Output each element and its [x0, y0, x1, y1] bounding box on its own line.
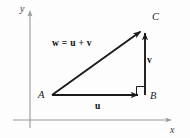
- vertex-label-b: B: [150, 91, 156, 102]
- vector-diagram-figure: y x A B C u v w = u + v: [0, 0, 190, 138]
- x-axis-label: x: [170, 125, 174, 135]
- vertex-label-a: A: [38, 90, 44, 101]
- equation-label: w = u + v: [52, 39, 92, 49]
- right-angle-marker: [137, 87, 146, 96]
- vector-label-u: u: [95, 102, 100, 112]
- y-axis-label: y: [20, 4, 24, 14]
- diagram-canvas: [0, 0, 190, 138]
- vertex-label-c: C: [152, 12, 159, 23]
- vector-label-v: v: [147, 56, 152, 66]
